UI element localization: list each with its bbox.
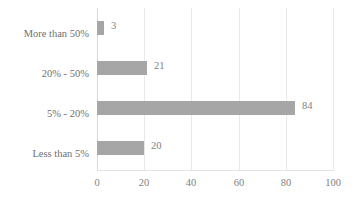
category-label-more-than-50: More than 50% [0, 27, 89, 41]
x-axis-line [97, 170, 334, 171]
category-label-5-to-20: 5% - 20% [0, 107, 89, 121]
gridline-20 [144, 8, 145, 170]
bar-value-label: 21 [154, 59, 165, 73]
plot-area: 3 21 84 20 [97, 8, 333, 170]
x-tick-label-100: 100 [313, 176, 353, 190]
category-label-20-to-50: 20% - 50% [0, 67, 89, 81]
bar-chart: 3 21 84 20 More than 50% 20% - 50% 5% - … [0, 0, 363, 203]
x-tick-label-0: 0 [77, 176, 117, 190]
bar-value-label: 84 [302, 99, 313, 113]
bar-20-to-50[interactable] [97, 61, 147, 75]
x-tick-label-60: 60 [219, 176, 259, 190]
bar-more-than-50[interactable] [97, 21, 104, 35]
category-label-less-than-5: Less than 5% [0, 147, 89, 161]
x-tick-label-40: 40 [171, 176, 211, 190]
bar-value-label: 3 [111, 19, 116, 33]
gridline-60 [239, 8, 240, 170]
x-tick-label-80: 80 [266, 176, 306, 190]
bar-value-label: 20 [151, 139, 162, 153]
x-tick-label-20: 20 [124, 176, 164, 190]
gridline-40 [191, 8, 192, 170]
gridline-100 [333, 8, 334, 170]
bar-5-to-20[interactable] [97, 101, 295, 115]
gridline-80 [286, 8, 287, 170]
bar-less-than-5[interactable] [97, 141, 144, 155]
